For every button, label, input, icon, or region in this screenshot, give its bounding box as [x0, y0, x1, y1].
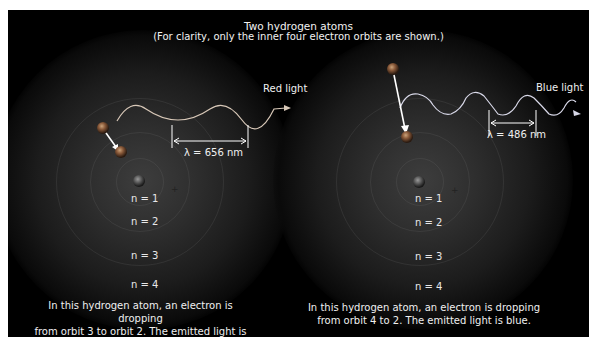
right-caption: In this hydrogen atom, an electron is dr… — [304, 301, 544, 327]
red-wave-arrow-head — [284, 105, 291, 111]
orbit-label-n4: n = 4 — [131, 279, 158, 290]
electron-start — [387, 63, 399, 75]
blue-light-label: Blue light — [536, 82, 583, 93]
orbit-label-n4: n = 4 — [415, 281, 442, 292]
left-caption-line1: In this hydrogen atom, an electron is dr… — [28, 299, 253, 325]
left-caption: In this hydrogen atom, an electron is dr… — [28, 299, 253, 337]
blue-wavelength-label: λ = 486 nm — [487, 129, 546, 140]
electron-start — [97, 122, 109, 134]
diagram-panel: Two hydrogen atoms (For clarity, only th… — [8, 10, 589, 337]
left-caption-line2: from orbit 3 to orbit 2. The emitted lig… — [28, 325, 253, 337]
nucleus-plus-symbol: + — [171, 184, 179, 194]
orbit-label-n1: n = 1 — [415, 193, 442, 204]
blue-wave-arrow-head — [573, 110, 581, 116]
orbit-label-n3: n = 3 — [131, 250, 158, 261]
orbit-label-n2: n = 2 — [131, 216, 158, 227]
red-wavelength-label: λ = 656 nm — [184, 147, 243, 158]
blue-light-wave — [400, 92, 576, 115]
right-caption-line2: from orbit 4 to 2. The emitted light is … — [304, 314, 544, 327]
right-caption-line1: In this hydrogen atom, an electron is dr… — [304, 301, 544, 314]
orbit-label-n3: n = 3 — [415, 251, 442, 262]
nucleus — [413, 176, 425, 188]
nucleus — [133, 175, 145, 187]
electron-transition-arrow — [106, 133, 116, 147]
diagram-graphics — [8, 10, 589, 337]
orbit-label-n1: n = 1 — [131, 193, 158, 204]
electron-end — [115, 146, 127, 158]
orbit-label-n2: n = 2 — [415, 217, 442, 228]
electron-end — [401, 131, 413, 143]
nucleus-plus-symbol: + — [451, 185, 459, 195]
red-light-wave — [117, 105, 286, 128]
red-light-label: Red light — [263, 83, 307, 94]
